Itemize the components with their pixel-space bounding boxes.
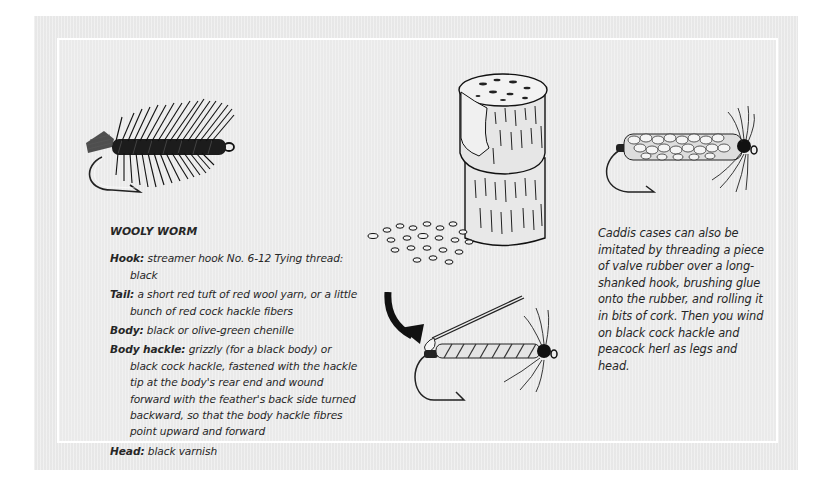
recipe-value: black varnish — [145, 445, 217, 457]
recipe-row-hook: Hook: streamer hook No. 6-12 Tying threa… — [110, 250, 360, 283]
recipe-value: grizzly (for a black body) or black cock… — [130, 343, 357, 437]
wooly-worm-recipe: WOOLY WORM Hook: streamer hook No. 6-12 … — [110, 224, 360, 462]
recipe-label: Hook: — [110, 252, 144, 264]
recipe-row-tail: Tail: a short red tuft of red wool yarn,… — [110, 286, 360, 319]
wooly-worm-fly-icon — [82, 95, 242, 195]
recipe-label: Body: — [110, 324, 144, 336]
caddis-description: Caddis cases can also be imitated by thr… — [598, 225, 768, 374]
recipe-row-head: Head: black varnish — [110, 443, 360, 459]
recipe-value: a short red tuft of red wool yarn, or a … — [130, 288, 357, 316]
recipe-value: streamer hook No. 6-12 Tying thread: bla… — [130, 252, 343, 280]
recipe-title: WOOLY WORM — [110, 224, 360, 240]
cork-stopper-icon — [365, 68, 550, 268]
recipe-row-body: Body: black or olive-green chenille — [110, 322, 360, 338]
cork-caddis-fly-icon — [598, 100, 758, 200]
recipe-label: Body hackle: — [110, 343, 185, 355]
rubber-caddis-fly-icon — [372, 292, 572, 432]
recipe-label: Head: — [110, 445, 145, 457]
recipe-value: black or olive-green chenille — [144, 324, 294, 336]
recipe-label: Tail: — [110, 288, 134, 300]
recipe-row-body-hackle: Body hackle: grizzly (for a black body) … — [110, 341, 360, 439]
